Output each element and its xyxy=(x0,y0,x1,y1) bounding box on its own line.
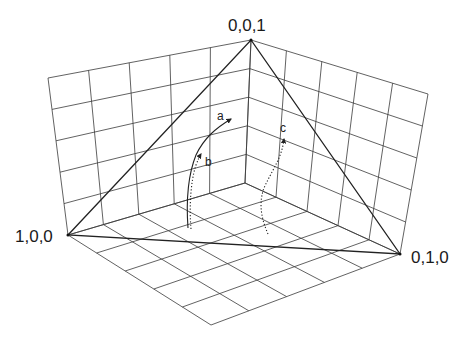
grid-line xyxy=(125,211,307,271)
grid-line xyxy=(246,154,405,222)
grid-line xyxy=(250,69,423,126)
grid-line xyxy=(251,40,428,94)
grid-line xyxy=(245,183,400,254)
grid-line xyxy=(170,55,174,204)
grid-line xyxy=(211,254,400,325)
grid-line xyxy=(89,70,104,224)
vertex-label-010: 0,1,0 xyxy=(411,249,449,266)
vertex-label-001: 0,0,1 xyxy=(228,17,266,34)
trajectory-a xyxy=(187,119,231,228)
grid-line xyxy=(60,126,247,172)
grid-line xyxy=(154,226,338,289)
vertex-dot xyxy=(67,234,70,237)
vertex-label-100: 1,0,0 xyxy=(15,228,53,245)
trajectory-b xyxy=(190,154,201,229)
curve-label-b: b xyxy=(205,156,212,168)
grid-line xyxy=(249,97,417,158)
grid-line xyxy=(210,193,363,268)
left-wall-grid xyxy=(48,40,251,235)
simplex-triangle xyxy=(67,39,402,256)
grid-line xyxy=(48,78,68,235)
grid-line xyxy=(210,48,211,194)
simplex-diagram xyxy=(0,0,466,339)
curve-label-a: a xyxy=(217,110,224,122)
grid-line xyxy=(369,83,393,240)
trajectory-curves xyxy=(187,119,284,234)
grid-line xyxy=(139,214,287,296)
vertex-dot xyxy=(399,253,402,256)
grid-line xyxy=(338,72,357,225)
grid-line xyxy=(129,63,139,214)
grid-line xyxy=(64,154,246,203)
grid-line xyxy=(97,197,276,253)
vertex-dot xyxy=(250,39,253,42)
grid-line xyxy=(400,94,428,254)
grid-line xyxy=(174,204,324,283)
grid-line xyxy=(307,62,322,212)
curve-label-c: c xyxy=(280,122,286,134)
grid-line xyxy=(68,235,211,325)
grid-line xyxy=(245,40,251,183)
floor-grid xyxy=(68,183,400,325)
right-wall-grid xyxy=(245,40,428,254)
grid-line xyxy=(247,126,411,190)
grid-line xyxy=(182,240,369,307)
